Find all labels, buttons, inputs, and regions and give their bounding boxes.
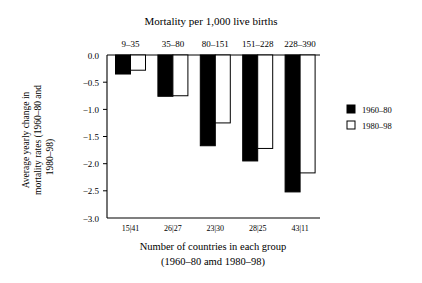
legend-label-1980-98: 1980–98	[362, 121, 392, 131]
y-tick-label-6: −3.0	[83, 214, 100, 224]
legend-swatch-1980-98	[347, 121, 355, 129]
group-label-1: 35–80	[162, 39, 185, 49]
bar-1980-98-4	[300, 55, 315, 173]
y-tick-label-0: 0.0	[88, 51, 100, 61]
y-axis-title-line-3: 1980–98)	[45, 139, 56, 175]
bar-1960-80-3	[243, 55, 258, 161]
bar-1960-80-1	[158, 55, 173, 96]
bar-1980-98-1	[173, 55, 188, 96]
group-count-labels: 15|41 26|27 23|30 28|25 43|11	[122, 224, 309, 233]
bar-1960-80-0	[116, 55, 131, 74]
y-axis: 0.0 −0.5 −1.0 −1.5 −2.0 −2.5 −3.0	[83, 51, 107, 224]
legend-label-1960-80: 1960–80	[362, 105, 392, 115]
bar-1980-98-2	[215, 55, 230, 123]
chart-title: Mortality per 1,000 live births	[145, 15, 278, 27]
group-range-labels: 9–35 35–80 80–151 151–228 228–390	[122, 39, 317, 49]
group-label-0: 9–35	[122, 39, 141, 49]
y-tick-label-2: −1.0	[83, 105, 100, 115]
bar-1980-98-3	[258, 55, 273, 148]
y-axis-title: Average yearly change in mortality rates…	[21, 85, 56, 195]
y-axis-title-line-2: mortality rates (1960–80 and	[33, 85, 44, 195]
bar-1980-98-0	[131, 55, 146, 70]
bars	[116, 55, 316, 192]
chart-figure: Mortality per 1,000 live births 9–35 35–…	[0, 0, 422, 283]
group-label-2: 80–151	[202, 39, 229, 49]
group-count-3: 28|25	[249, 224, 267, 233]
bar-1960-80-4	[285, 55, 300, 192]
mortality-bar-chart: Mortality per 1,000 live births 9–35 35–…	[0, 0, 422, 283]
y-tick-label-4: −2.0	[83, 159, 100, 169]
x-axis-sublabel: (1960–80 amd 1980–98)	[161, 256, 265, 268]
group-label-4: 228–390	[284, 39, 316, 49]
group-count-1: 26|27	[164, 224, 182, 233]
legend: 1960–80 1980–98	[347, 105, 392, 131]
y-tick-label-1: −0.5	[83, 78, 100, 88]
group-count-2: 23|30	[206, 224, 224, 233]
group-count-0: 15|41	[122, 224, 140, 233]
group-count-4: 43|11	[291, 224, 308, 233]
y-tick-label-5: −2.5	[83, 186, 100, 196]
y-axis-title-line-1: Average yearly change in	[21, 91, 31, 188]
legend-swatch-1960-80	[347, 105, 355, 113]
bar-1960-80-2	[200, 55, 215, 146]
x-axis-label: Number of countries in each group	[140, 241, 287, 252]
y-tick-label-3: −1.5	[83, 132, 100, 142]
group-label-3: 151–228	[242, 39, 274, 49]
